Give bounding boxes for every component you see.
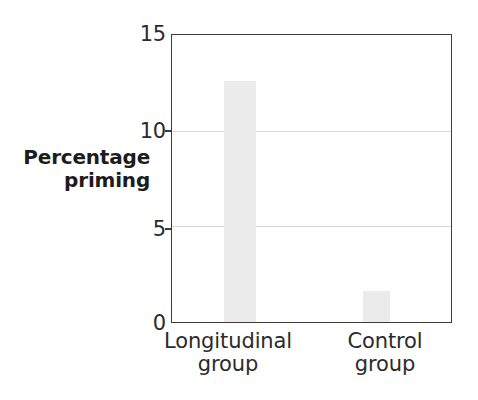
x-category-label-control-group-line2: group (318, 353, 452, 376)
bar-chart-figure: Percentage priming 15 10 5 0 Longitudina… (0, 0, 478, 400)
x-category-label-control-group-line1: Control (347, 329, 422, 353)
x-category-label-longitudinal-group-line1: Longitudinal (164, 329, 292, 353)
bar-longitudinal-group (224, 81, 256, 322)
y-tick-label-10: 10 (120, 121, 166, 142)
gridline-5 (172, 226, 451, 227)
y-axis-title-line1: Percentage (23, 145, 150, 169)
x-category-label-control-group: Control group (318, 330, 452, 375)
bar-control-group (363, 291, 390, 322)
x-category-label-longitudinal-group-line2: group (160, 353, 296, 376)
gridline-10 (172, 131, 451, 132)
y-tick-label-15: 15 (120, 24, 166, 45)
y-axis-title-line2: priming (10, 169, 150, 192)
y-tick-label-5: 5 (120, 219, 166, 240)
y-axis-title: Percentage priming (10, 146, 150, 192)
x-category-label-longitudinal-group: Longitudinal group (160, 330, 296, 375)
plot-area (171, 34, 452, 323)
